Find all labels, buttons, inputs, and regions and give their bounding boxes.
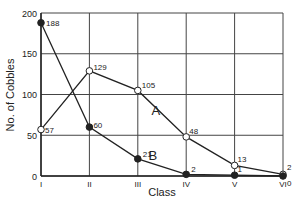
cobbles-line-chart: 050100150200IIIIIIIVVVI 5712910548132A18… (0, 0, 302, 205)
series-line-b (41, 23, 283, 176)
filled-circle-marker (183, 171, 190, 178)
y-axis-label: No. of Cobbles (4, 58, 16, 131)
x-tick-label: II (87, 180, 91, 189)
data-label: 105 (142, 81, 156, 90)
series-name-label: B (148, 148, 157, 163)
filled-circle-marker (280, 173, 287, 180)
y-tick-label: 200 (22, 9, 37, 19)
filled-circle-marker (38, 19, 45, 26)
data-label: 0 (287, 179, 292, 188)
series-group: 5712910548132A1886021210B (38, 19, 292, 188)
series-name-label: A (151, 103, 160, 118)
filled-circle-marker (86, 124, 93, 131)
y-tick-label: 50 (27, 131, 37, 141)
chart-canvas: 050100150200IIIIIIIVVVI 5712910548132A18… (0, 0, 302, 205)
x-tick-label: V (232, 180, 238, 189)
y-tick-label: 150 (22, 49, 37, 59)
open-circle-marker (38, 126, 45, 133)
x-axis-label: Class (148, 186, 176, 198)
data-label: 57 (45, 126, 54, 135)
series-line-a (41, 71, 283, 175)
filled-circle-marker (135, 156, 142, 163)
y-tick-label: 0 (32, 172, 37, 182)
data-label: 48 (189, 127, 198, 136)
data-label: 188 (46, 19, 60, 28)
y-tick-label: 100 (22, 90, 37, 100)
x-tick-label: VI (279, 180, 287, 189)
x-tick-label: III (134, 180, 141, 189)
data-label: 129 (93, 63, 107, 72)
x-tick-label: IV (182, 180, 190, 189)
open-circle-marker (135, 87, 142, 94)
data-label: 1 (238, 165, 243, 174)
data-label: 60 (93, 121, 102, 130)
x-tick-label: I (40, 180, 42, 189)
data-label: 13 (238, 155, 247, 164)
data-label: 2 (287, 163, 292, 172)
data-label: 2 (191, 165, 196, 174)
open-circle-marker (86, 68, 93, 75)
grid-lines (41, 13, 283, 176)
